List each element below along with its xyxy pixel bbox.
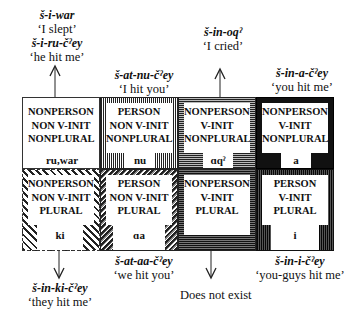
cell-feature-vinit: NON V-INIT (106, 191, 172, 205)
cell-feature-vinit: NON V-INIT (106, 119, 172, 133)
cell-feature-person: NONPERSON (28, 177, 94, 191)
morpheme: nu (125, 151, 155, 168)
cell-person-nonvinit-nonplural: PERSON NON V-INIT NONPLURAL nu (100, 97, 178, 169)
morpheme: ru,war (35, 151, 89, 169)
cell-feature-person: PERSON (106, 105, 172, 119)
cell-feature-person: PERSON (262, 177, 328, 191)
label-you-hit-me: š-in-a-čˀey ‘you hit me’ (262, 66, 342, 94)
form-we-hit-you: š-at-ɑa-čˀey (102, 254, 186, 268)
cell-feature-vinit: V-INIT (262, 191, 328, 205)
cell-person-vinit-plural: PERSON V-INIT PLURAL i (256, 169, 334, 251)
cell-feature-vinit: V-INIT (184, 191, 250, 205)
cell-nonperson-vinit-nonplural-a: NONPERSON V-INIT NONPLURAL ɑqˀ (178, 97, 256, 169)
form-youguys-hit-me: š-in-i-čˀey (248, 254, 352, 268)
gloss-i-hit-you: ‘I hit you’ (100, 82, 188, 96)
gloss-he-hit-me: ‘he hit me’ (20, 50, 94, 64)
cell-feature-plural: NONPLURAL (28, 132, 94, 146)
label-youguys-hit-me: š-in-i-čˀey ‘you-guys hit me’ (248, 254, 352, 282)
morpheme: ɑqˀ (203, 151, 233, 168)
label-we-hit-you: š-at-ɑa-čˀey ‘we hit you’ (102, 254, 186, 282)
cell-feature-plural: NONPLURAL (184, 132, 250, 146)
label-i-slept: š-i-war ‘I slept’ š-i-ru-čˀey ‘he hit me… (20, 8, 94, 64)
morpheme: a (281, 151, 311, 168)
cell-nonperson-nonvinit-plural: NONPERSON NON V-INIT PLURAL ki (22, 169, 100, 251)
morpheme: ki (37, 223, 83, 250)
gloss-youguys-hit-me: ‘you-guys hit me’ (248, 268, 352, 282)
cell-feature-vinit: V-INIT (184, 119, 250, 133)
gloss-you-hit-me: ‘you hit me’ (262, 80, 342, 94)
cell-nonperson-vinit-nonplural-b: NONPERSON V-INIT NONPLURAL a (256, 97, 334, 169)
does-not-exist-text: Does not exist (180, 288, 246, 302)
cell-feature-plural: PLURAL (28, 204, 94, 218)
form-i-hit-you: š-at-nu-čˀey (100, 68, 188, 82)
cell-feature-vinit: NON V-INIT (28, 119, 94, 133)
morpheme: i (271, 223, 319, 250)
cell-feature-person: NONPERSON (184, 177, 250, 191)
cell-feature-plural: NONPLURAL (106, 132, 172, 146)
cell-feature-plural: PLURAL (106, 204, 172, 218)
cell-person-nonvinit-plural: PERSON NON V-INIT PLURAL ɑa (100, 169, 178, 251)
label-i-hit-you: š-at-nu-čˀey ‘I hit you’ (100, 68, 188, 96)
cell-feature-vinit: NON V-INIT (28, 191, 94, 205)
gloss-they-hit-me: ‘they hit me’ (20, 295, 100, 309)
label-they-hit-me: š-in-ki-čˀey ‘they hit me’ (20, 281, 100, 309)
form-i-cried: š-in-oqˀ (190, 25, 256, 39)
cell-feature-person: NONPERSON (28, 105, 94, 119)
cell-feature-person: NONPERSON (184, 105, 250, 119)
cell-feature-plural: PLURAL (262, 204, 328, 218)
cell-feature-person: PERSON (106, 177, 172, 191)
form-he-hit-me: š-i-ru-čˀey (20, 36, 94, 50)
gloss-i-cried: ‘I cried’ (190, 39, 256, 53)
gloss-we-hit-you: ‘we hit you’ (102, 268, 186, 282)
morpheme: ɑa (113, 223, 165, 250)
cell-feature-vinit: V-INIT (262, 119, 328, 133)
gloss-i-slept: ‘I slept’ (20, 22, 94, 36)
label-does-not-exist: Does not exist (180, 288, 246, 302)
cell-feature-plural: NONPLURAL (262, 132, 328, 146)
cell-feature-plural: PLURAL (184, 204, 250, 218)
label-i-cried: š-in-oqˀ ‘I cried’ (190, 25, 256, 53)
form-they-hit-me: š-in-ki-čˀey (20, 281, 100, 295)
form-i-slept: š-i-war (20, 8, 94, 22)
cell-nonperson-nonvinit-nonplural: NONPERSON NON V-INIT NONPLURAL ru,war (22, 97, 100, 169)
cell-feature-person: NONPERSON (262, 105, 328, 119)
form-you-hit-me: š-in-a-čˀey (262, 66, 342, 80)
cell-nonperson-vinit-plural: NONPERSON V-INIT PLURAL (178, 169, 256, 251)
